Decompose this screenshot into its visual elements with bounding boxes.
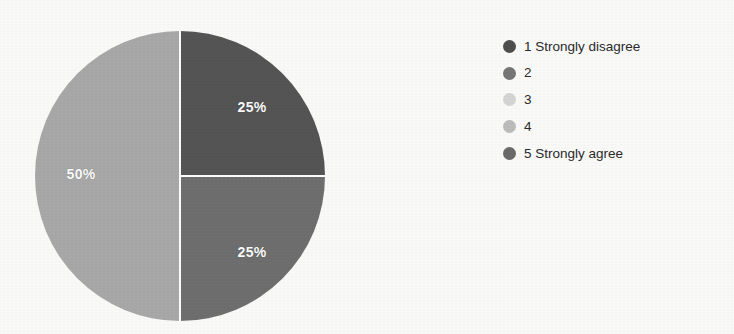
legend-label-4: 4 bbox=[524, 120, 532, 134]
legend-item-2[interactable]: 2 bbox=[503, 60, 713, 87]
pie-slice-label-3: 50% bbox=[67, 166, 96, 182]
legend-swatch-icon-2 bbox=[503, 67, 516, 80]
legend-swatch-icon-5 bbox=[503, 147, 516, 160]
legend-item-1[interactable]: 1 Strongly disagree bbox=[503, 33, 713, 60]
legend-label-2: 2 bbox=[524, 66, 532, 80]
pie-chart-figure: 25% 25% 50% 1 Strongly disagree 2 3 4 5 … bbox=[0, 0, 734, 334]
legend-label-3: 3 bbox=[524, 93, 532, 107]
pie-slice-label-1: 25% bbox=[238, 99, 267, 115]
legend-item-5[interactable]: 5 Strongly agree bbox=[503, 140, 713, 167]
legend-label-5: 5 Strongly agree bbox=[524, 147, 623, 161]
legend-label-1: 1 Strongly disagree bbox=[524, 40, 640, 54]
legend-swatch-icon-1 bbox=[503, 40, 516, 53]
chart-legend: 1 Strongly disagree 2 3 4 5 Strongly agr… bbox=[503, 33, 713, 167]
legend-item-4[interactable]: 4 bbox=[503, 113, 713, 140]
pie-slice-label-2: 25% bbox=[238, 244, 267, 260]
legend-swatch-icon-3 bbox=[503, 93, 516, 106]
legend-item-3[interactable]: 3 bbox=[503, 87, 713, 114]
pie-slice-3[interactable] bbox=[35, 31, 180, 321]
pie-chart-plot-area: 25% 25% 50% bbox=[35, 31, 325, 321]
legend-swatch-icon-4 bbox=[503, 120, 516, 133]
